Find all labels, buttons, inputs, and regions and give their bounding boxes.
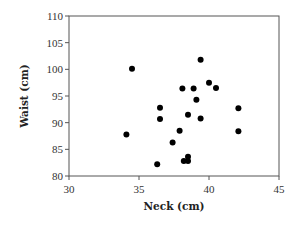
y-axis-title: Waist (cm) (18, 64, 30, 129)
data-point (157, 116, 163, 122)
data-point (123, 131, 129, 137)
data-point (129, 66, 135, 72)
data-point (179, 86, 185, 92)
data-point (198, 115, 204, 121)
y-tick-label: 80 (52, 170, 64, 182)
data-point (154, 161, 160, 167)
plot-area (69, 16, 279, 176)
scatter-chart: 80859095100105110 30354045 Neck (cm) Wai… (0, 0, 301, 226)
data-point (177, 128, 183, 134)
y-tick-label: 100 (47, 63, 64, 75)
y-tick-label: 90 (52, 117, 64, 129)
x-tick-label: 35 (134, 183, 146, 195)
y-tick-label: 105 (47, 37, 64, 49)
x-tick-label: 45 (274, 183, 286, 195)
x-tick-label: 40 (204, 183, 216, 195)
y-tick-label: 95 (52, 90, 64, 102)
x-tick-label: 30 (64, 183, 76, 195)
data-point (235, 128, 241, 134)
data-point (170, 139, 176, 145)
data-point (198, 57, 204, 63)
data-points (123, 57, 241, 168)
data-point (191, 86, 197, 92)
data-point (206, 80, 212, 86)
data-point (213, 85, 219, 91)
data-point (235, 105, 241, 111)
y-tick-label: 85 (52, 143, 64, 155)
x-axis-title: Neck (cm) (143, 200, 204, 212)
y-axis: 80859095100105110 (47, 10, 70, 182)
data-point (157, 105, 163, 111)
y-tick-label: 110 (47, 10, 64, 22)
data-point (193, 97, 199, 103)
data-point (185, 112, 191, 118)
data-point (185, 158, 191, 164)
x-axis: 30354045 (64, 176, 286, 195)
